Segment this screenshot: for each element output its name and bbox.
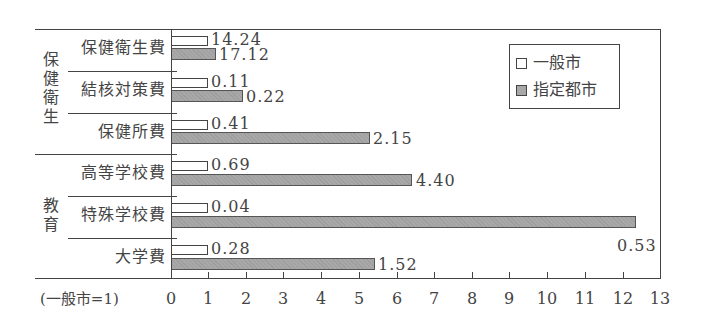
value-label: 0.28	[211, 241, 251, 257]
x-tick	[509, 272, 510, 278]
legend-label: 指定都市	[533, 81, 597, 99]
bar-general-city	[172, 78, 208, 88]
bar-designated-city	[172, 216, 636, 228]
value-label: 0.41	[211, 116, 251, 132]
value-label: 0.11	[211, 74, 251, 90]
bar-designated-city	[172, 48, 216, 60]
x-tick	[547, 272, 548, 278]
category-label: 特殊学校費	[81, 206, 166, 224]
x-tick-label: 7	[419, 290, 449, 308]
value-label: 17.12	[219, 47, 270, 63]
axis-unit-label: (一般市=1)	[40, 290, 119, 308]
x-tick-label: 10	[532, 290, 562, 308]
x-tick-label: 6	[382, 290, 412, 308]
row-divider	[68, 196, 171, 197]
x-tick	[585, 272, 586, 278]
x-tick	[623, 272, 624, 278]
x-tick	[246, 272, 247, 278]
x-tick-label: 0	[156, 290, 186, 308]
legend-item-general-city: 一般市	[516, 54, 581, 72]
legend: 一般市 指定都市	[509, 44, 620, 109]
legend-item-designated-city: 指定都市	[516, 81, 597, 99]
value-label: 2.15	[373, 131, 413, 147]
y-tick	[171, 196, 177, 197]
row-divider	[68, 238, 171, 239]
x-tick	[472, 272, 473, 278]
group-divider	[35, 154, 171, 155]
x-tick-label: 3	[268, 290, 298, 308]
legend-label: 一般市	[533, 54, 581, 72]
white-swatch-icon	[516, 58, 527, 69]
frame-right-line	[660, 29, 661, 279]
category-label: 高等学校費	[81, 164, 166, 182]
x-tick	[283, 272, 284, 278]
group-label-education: 教 育	[42, 196, 60, 234]
y-tick	[171, 154, 177, 155]
y-tick	[171, 113, 177, 114]
group-label-health: 保 健 衛 生	[42, 50, 60, 126]
x-axis-line	[35, 278, 661, 279]
bar-general-city	[172, 120, 208, 130]
x-tick	[321, 272, 322, 278]
category-label: 大学費	[115, 248, 166, 266]
bar-general-city	[172, 36, 208, 46]
bar-designated-city	[172, 132, 370, 144]
value-label: 0.69	[211, 157, 251, 173]
value-label: 0.53	[617, 238, 657, 254]
x-tick-label: 13	[645, 290, 675, 308]
value-label: 4.40	[416, 173, 456, 189]
x-tick	[434, 272, 435, 278]
category-label: 結核対策費	[81, 81, 166, 99]
x-tick-label: 5	[344, 290, 374, 308]
frame-top-line	[35, 29, 661, 30]
x-tick-label: 11	[570, 290, 600, 308]
bar-general-city	[172, 245, 208, 255]
bar-general-city	[172, 203, 208, 213]
grey-swatch-icon	[516, 85, 527, 96]
x-tick-label: 9	[494, 290, 524, 308]
row-divider	[68, 71, 171, 72]
value-label: 0.22	[246, 89, 286, 105]
value-label: 0.04	[211, 199, 251, 215]
row-divider	[68, 113, 171, 114]
category-label: 保健衛生費	[81, 39, 166, 57]
x-tick-label: 12	[608, 290, 638, 308]
x-tick	[359, 272, 360, 278]
bar-designated-city	[172, 90, 243, 102]
x-tick	[208, 272, 209, 278]
x-tick-label: 8	[457, 290, 487, 308]
bar-designated-city	[172, 258, 375, 270]
value-label: 1.52	[378, 257, 418, 273]
bar-designated-city	[172, 174, 412, 186]
x-tick-label: 2	[231, 290, 261, 308]
y-tick	[171, 71, 177, 72]
x-tick	[397, 272, 398, 278]
category-label: 保健所費	[98, 123, 166, 141]
x-tick-label: 1	[193, 290, 223, 308]
y-tick	[171, 238, 177, 239]
bar-general-city	[172, 161, 208, 171]
x-tick-label: 4	[306, 290, 336, 308]
